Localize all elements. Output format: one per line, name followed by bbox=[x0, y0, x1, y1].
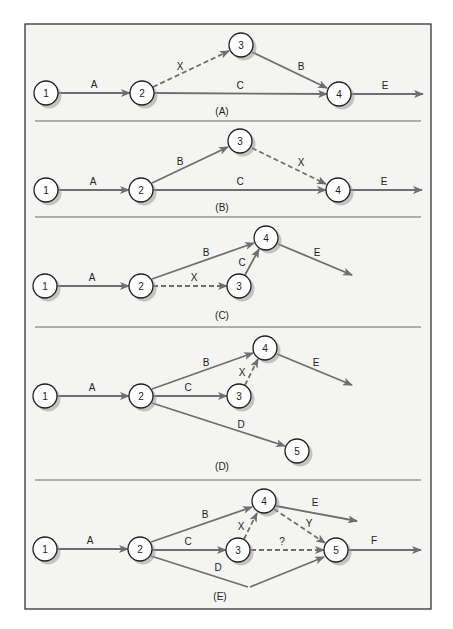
activity-label: A bbox=[90, 176, 97, 187]
activity-label: B bbox=[202, 509, 209, 520]
activity-label: C bbox=[184, 536, 191, 547]
activity-label: E bbox=[381, 176, 388, 187]
activity-label: C bbox=[184, 382, 191, 393]
node-number: 4 bbox=[263, 233, 269, 244]
activity-label: A bbox=[87, 535, 94, 546]
activity-label: X bbox=[191, 272, 198, 283]
node-number: 3 bbox=[236, 281, 242, 292]
node-number: 4 bbox=[336, 89, 342, 100]
node-number: 3 bbox=[235, 545, 241, 556]
node-number: 5 bbox=[294, 446, 300, 457]
node-number: 4 bbox=[261, 496, 267, 507]
activity-label: B bbox=[177, 156, 184, 167]
panel-label: (D) bbox=[215, 461, 229, 472]
activity-label: B bbox=[203, 247, 210, 258]
node-number: 1 bbox=[43, 88, 49, 99]
activity-label: D bbox=[214, 562, 221, 573]
node-number: 3 bbox=[238, 40, 244, 51]
node-number: 1 bbox=[43, 185, 49, 196]
activity-label: F bbox=[371, 535, 377, 546]
node-number: 1 bbox=[42, 391, 48, 402]
node-number: 1 bbox=[42, 544, 48, 555]
node-number: 3 bbox=[237, 136, 243, 147]
panel-label: (C) bbox=[215, 310, 229, 321]
activity-label: E bbox=[313, 357, 320, 368]
activity-label: ? bbox=[279, 536, 285, 547]
node-number: 1 bbox=[42, 281, 48, 292]
network-diagram: AXBCE1234(A)ABXCE1234(B)ABXCE1234(C)ABCX… bbox=[0, 0, 453, 629]
activity-label: B bbox=[298, 61, 305, 72]
activity-label: E bbox=[312, 497, 319, 508]
node-number: 2 bbox=[138, 281, 144, 292]
node-number: 2 bbox=[139, 88, 145, 99]
activity-label: E bbox=[314, 247, 321, 258]
activity-label: A bbox=[89, 382, 96, 393]
node-number: 2 bbox=[138, 391, 144, 402]
node-number: 5 bbox=[333, 545, 339, 556]
activity-label: B bbox=[203, 357, 210, 368]
node-number: 2 bbox=[137, 544, 143, 555]
node-number: 3 bbox=[236, 391, 242, 402]
panel-label: (B) bbox=[215, 202, 228, 213]
activity-label: E bbox=[382, 80, 389, 91]
activity-label: Y bbox=[306, 518, 313, 529]
panel-label: (A) bbox=[215, 106, 228, 117]
activity-label: C bbox=[236, 176, 243, 187]
activity-arrow bbox=[154, 93, 327, 94]
activity-label: A bbox=[91, 79, 98, 90]
node-number: 2 bbox=[138, 185, 144, 196]
activity-label: A bbox=[89, 272, 96, 283]
activity-label: C bbox=[238, 257, 245, 268]
panel-label: (E) bbox=[213, 591, 226, 602]
activity-label: X bbox=[238, 521, 245, 532]
node-number: 4 bbox=[335, 185, 341, 196]
activity-label: X bbox=[298, 157, 305, 168]
activity-label: C bbox=[236, 80, 243, 91]
activity-label: X bbox=[177, 61, 184, 72]
activity-label: D bbox=[237, 419, 244, 430]
node-number: 4 bbox=[262, 343, 268, 354]
activity-label: X bbox=[239, 367, 246, 378]
